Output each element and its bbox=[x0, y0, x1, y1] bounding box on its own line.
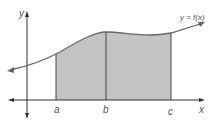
curve-label: y = f(x) bbox=[179, 13, 205, 22]
point-a-label: a bbox=[54, 104, 60, 115]
x-axis-arrow-right-icon bbox=[199, 98, 205, 102]
point-b-label: b bbox=[103, 104, 109, 115]
curve-arrow-left-icon bbox=[7, 67, 14, 73]
point-c-label: c bbox=[168, 106, 173, 117]
area-under-curve-diagram: y x y = f(x) a b c bbox=[0, 0, 213, 124]
curve-arrow-right-icon bbox=[198, 22, 205, 27]
x-axis-arrow-left-icon bbox=[8, 98, 14, 102]
x-axis-label: x bbox=[198, 104, 205, 115]
y-axis-label: y bbox=[18, 8, 25, 19]
y-axis-arrow-down-icon bbox=[25, 113, 29, 119]
y-axis-arrow-up-icon bbox=[25, 11, 29, 17]
